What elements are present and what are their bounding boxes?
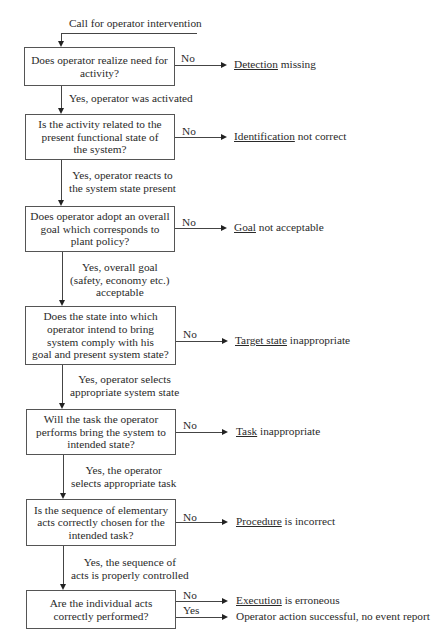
outcome-key: Task — [236, 425, 257, 437]
no-label: No — [183, 589, 197, 602]
decision-box-detection: Does operator realize need for activity? — [24, 47, 175, 86]
yes-line: Yes, overall goal — [70, 261, 170, 274]
question-line: plant policy? — [30, 235, 169, 248]
yes-line: Yes, the operator — [71, 464, 176, 477]
outcome-task: Task inappropriate — [236, 425, 320, 437]
yes-label: Yes, the sequence of acts is properly co… — [71, 556, 189, 581]
arrow-right-icon — [221, 225, 227, 231]
outcome-success: Operator action successful, no event rep… — [236, 610, 430, 622]
decision-box-execution: Are the individual acts correctly perfor… — [26, 590, 176, 629]
question-line: Does the state into which — [32, 310, 169, 323]
outcome-key: Identification — [234, 130, 295, 142]
no-connector — [175, 228, 222, 229]
yes-connector — [62, 252, 63, 300]
outcome-key: Goal — [234, 221, 256, 233]
arrow-right-icon — [222, 519, 228, 525]
decision-box-target-state: Does the state into which operator inten… — [25, 306, 176, 365]
outcome-identification: Identification not correct — [234, 130, 346, 142]
outcome-rest: inappropriate — [257, 425, 320, 437]
outcome-rest: is erroneous — [282, 594, 340, 606]
yes-connector — [176, 617, 223, 618]
question-line: Is the sequence of elementary — [34, 504, 168, 517]
outcome-rest: is incorrect — [282, 515, 335, 527]
yes-label: Yes — [183, 604, 199, 617]
yes-line: acts is properly controlled — [71, 569, 189, 582]
arrow-right-icon — [222, 338, 228, 344]
outcome-rest: not correct — [295, 130, 346, 142]
yes-line: acceptable — [70, 286, 170, 299]
question-line: operator intend to bring — [32, 323, 169, 336]
question-line: correctly performed? — [50, 610, 153, 623]
outcome-execution: Execution is erroneous — [236, 594, 340, 606]
question-line: activity? — [31, 67, 168, 80]
yes-connector — [63, 546, 64, 584]
no-connector — [176, 522, 223, 523]
arrow-right-icon — [221, 62, 227, 68]
arrow-right-icon — [221, 134, 227, 140]
outcome-goal: Goal not acceptable — [234, 221, 324, 233]
question-line: performs bring the system to — [36, 426, 166, 439]
question-line: goal which corresponds to — [30, 223, 169, 236]
outcome-key: Detection — [234, 58, 278, 70]
question-line: goal and present system state? — [32, 348, 169, 361]
arrow-right-icon — [222, 614, 228, 620]
no-label: No — [182, 125, 196, 138]
no-label: No — [181, 52, 195, 65]
no-connector — [175, 65, 222, 66]
yes-line: Yes, operator reacts to — [69, 169, 176, 182]
yes-connector — [62, 365, 63, 403]
no-connector — [175, 137, 222, 138]
question-line: the system? — [38, 143, 161, 156]
outcome-key: Target state — [235, 334, 287, 346]
question-line: Are the individual acts — [50, 597, 153, 610]
no-label: No — [183, 328, 197, 341]
yes-line: Yes, the sequence of — [71, 556, 189, 569]
yes-line: the system state present — [69, 182, 176, 195]
start-label: Call for operator intervention — [69, 17, 202, 30]
question-line: Will the task the operator — [36, 413, 166, 426]
yes-connector — [61, 160, 62, 200]
decision-box-task: Will the task the operator performs brin… — [26, 409, 176, 455]
no-label: No — [183, 419, 197, 432]
decision-box-goal: Does operator adopt an overall goal whic… — [25, 206, 175, 252]
yes-line: Yes, operator was activated — [69, 92, 193, 105]
decision-box-procedure: Is the sequence of elementary acts corre… — [26, 499, 176, 546]
no-connector — [176, 432, 223, 433]
outcome-procedure: Procedure is incorrect — [236, 515, 335, 527]
arrow-right-icon — [222, 429, 228, 435]
yes-line: Yes, operator selects — [70, 373, 179, 386]
yes-line: selects appropriate task — [71, 477, 176, 490]
yes-line: (safety, economy etc.) — [70, 274, 170, 287]
question-line: intended task? — [34, 529, 168, 542]
start-connector-down — [61, 33, 62, 41]
yes-line: appropriate system state — [70, 386, 179, 399]
yes-label: Yes, overall goal (safety, economy etc.)… — [70, 261, 170, 299]
yes-label: Yes, operator reacts to the system state… — [69, 169, 176, 194]
outcome-rest: inappropriate — [287, 334, 350, 346]
yes-label: Yes, operator was activated — [69, 92, 193, 105]
outcome-key: Procedure — [236, 515, 282, 527]
yes-label: Yes, operator selects appropriate system… — [70, 373, 179, 398]
question-line: Does operator adopt an overall — [30, 210, 169, 223]
yes-connector — [61, 86, 62, 108]
outcome-target-state: Target state inappropriate — [235, 334, 350, 346]
arrow-right-icon — [222, 598, 228, 604]
no-label: No — [182, 216, 196, 229]
no-connector — [176, 601, 223, 602]
yes-label: Yes, the operator selects appropriate ta… — [71, 464, 176, 489]
outcome-rest: missing — [278, 58, 316, 70]
question-line: intended state? — [36, 438, 166, 451]
yes-connector — [63, 455, 64, 493]
outcome-rest: not acceptable — [256, 221, 324, 233]
start-connector — [61, 33, 197, 34]
question-line: system comply with his — [32, 336, 169, 349]
question-line: present functional state of — [38, 131, 161, 144]
decision-box-identification: Is the activity related to the present f… — [25, 114, 175, 160]
no-connector — [176, 341, 223, 342]
outcome-key: Execution — [236, 594, 282, 606]
question-line: acts correctly chosen for the — [34, 516, 168, 529]
question-line: Does operator realize need for — [31, 54, 168, 67]
question-line: Is the activity related to the — [38, 118, 161, 131]
outcome-detection: Detection missing — [234, 58, 316, 70]
